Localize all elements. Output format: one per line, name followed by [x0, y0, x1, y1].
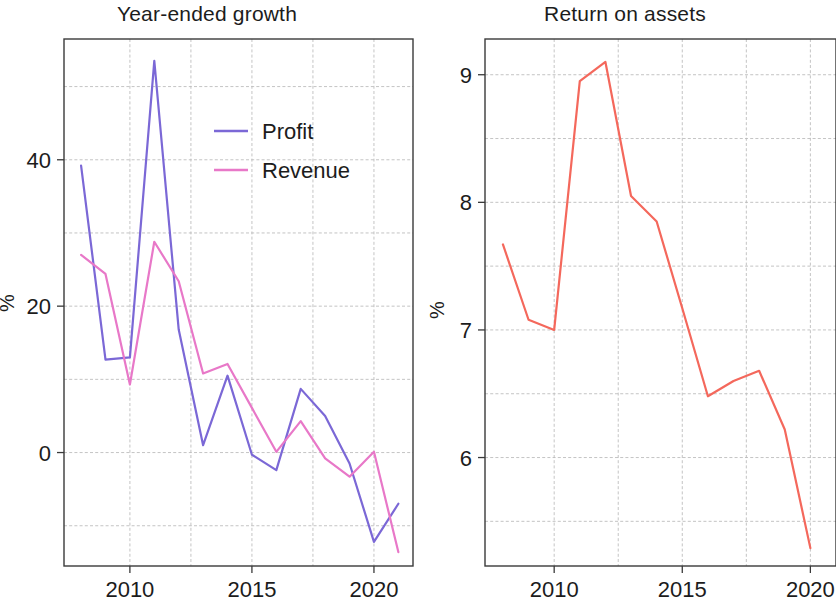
y-axis-tick-label: 0 — [39, 441, 51, 466]
plot-frame — [485, 39, 836, 566]
figure-panel-pair: Year-ended growth 02040201020152020%Prof… — [0, 0, 836, 604]
x-axis-tick-label: 2015 — [658, 577, 707, 602]
y-axis-tick-label: 8 — [460, 190, 472, 215]
series-line-return-on-assets — [503, 62, 810, 548]
x-axis-tick-label: 2020 — [349, 577, 398, 602]
plot-area-year-ended-growth: 02040201020152020%ProfitRevenue — [0, 0, 430, 604]
legend-label-profit: Profit — [262, 119, 313, 144]
y-axis-tick-label: 7 — [460, 318, 472, 343]
x-axis-tick-label: 2010 — [105, 577, 154, 602]
y-axis-tick-label: 40 — [27, 148, 51, 173]
y-axis-tick-label: 20 — [27, 294, 51, 319]
y-axis-title: % — [0, 294, 18, 312]
y-axis-title: % — [426, 301, 448, 319]
y-axis-tick-label: 6 — [460, 446, 472, 471]
panel-year-ended-growth: Year-ended growth 02040201020152020%Prof… — [0, 0, 430, 604]
series-line-profit — [81, 61, 398, 542]
x-axis-tick-label: 2020 — [786, 577, 835, 602]
plot-area-return-on-assets: 6789201020152020% — [430, 0, 836, 604]
x-axis-tick-label: 2015 — [227, 577, 276, 602]
panel-return-on-assets: Return on assets 6789201020152020% — [430, 0, 836, 604]
legend-label-revenue: Revenue — [262, 158, 350, 183]
y-axis-tick-label: 9 — [460, 63, 472, 88]
series-line-revenue — [81, 242, 398, 552]
x-axis-tick-label: 2010 — [530, 577, 579, 602]
plot-frame — [64, 39, 413, 566]
